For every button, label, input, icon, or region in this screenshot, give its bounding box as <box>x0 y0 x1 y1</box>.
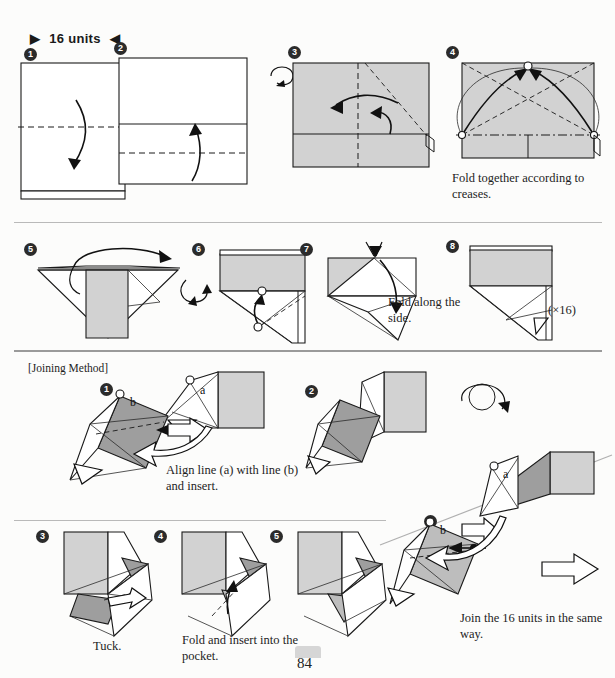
triangle-right-icon: ▶ <box>30 31 40 46</box>
page-number: 84 <box>297 655 312 672</box>
step-number-7: 7 <box>300 243 313 256</box>
step-number-3: 3 <box>288 46 301 59</box>
step-number-2: 2 <box>114 42 127 55</box>
caption-joining-step-6: Join the 16 units in the same way. <box>460 610 610 642</box>
page-title: ▶ 16 units ◀ <box>30 31 120 46</box>
diagram-joining-step-6: a b <box>400 452 615 622</box>
diagram-step-5 <box>30 246 185 346</box>
joining-step-number-3: 3 <box>36 530 49 543</box>
turn-over-icon-2 <box>456 383 518 417</box>
diagram-step-2 <box>116 55 256 190</box>
flip-over-icon <box>178 270 212 306</box>
joining-step-number-5: 5 <box>270 530 283 543</box>
step-number-6: 6 <box>192 243 205 256</box>
joining-step-number-2: 2 <box>305 385 318 398</box>
caption-step-4: Fold together according to creases. <box>452 170 612 202</box>
section-divider-3 <box>14 520 386 521</box>
joining-marker-b: b <box>130 395 136 409</box>
diagram-step-3 <box>290 60 440 175</box>
section-divider-2 <box>14 350 602 352</box>
caption-joining-step-3: Tuck. <box>93 638 121 654</box>
joining-marker-a-2: a <box>503 467 509 481</box>
diagram-step-6 <box>214 248 329 348</box>
step-number-4: 4 <box>446 46 459 59</box>
diagram-step-4 <box>448 60 608 168</box>
caption-joining-step-1: Align line (a) with line (b) and insert. <box>166 462 316 494</box>
proceed-arrow-icon <box>540 552 602 588</box>
instruction-page: ▶ 16 units ◀ 1 2 3 4 <box>0 0 615 678</box>
step-number-8: 8 <box>446 240 459 253</box>
caption-joining-step-4: Fold and insert into the pocket. <box>182 632 302 664</box>
page-title-text: 16 units <box>49 31 101 46</box>
diagram-step-8 <box>462 244 577 349</box>
caption-step-7: Fold along the side. <box>388 294 472 326</box>
joining-step-number-4: 4 <box>154 530 167 543</box>
joining-marker-b-2: b <box>440 523 446 537</box>
section-divider-1 <box>14 222 602 223</box>
joining-marker-a: a <box>200 383 206 397</box>
repeat-note: (×16) <box>548 302 576 318</box>
